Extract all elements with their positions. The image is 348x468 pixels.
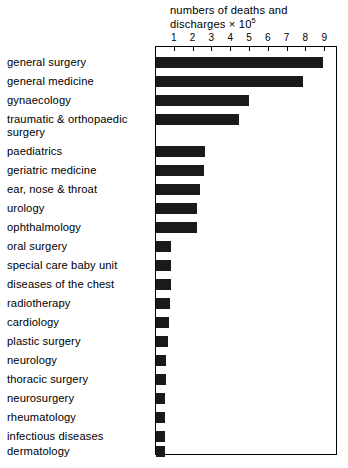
category-label-neurology: neurology [5,354,151,367]
category-label-rheumatology: rheumatology [5,411,151,424]
bar-infectious-diseases [156,431,165,442]
chart-title-line1: numbers of deaths and [170,4,288,16]
bar-thoracic-surgery [156,374,166,385]
bar-radiotherapy [156,298,170,309]
category-label-general-surgery: general surgery [5,56,151,69]
category-label-oral-surgery: oral surgery [5,240,151,253]
category-label-special-care-baby-unit: special care baby unit [5,259,151,272]
bar-rheumatology [156,412,165,423]
category-label-line1: traumatic & orthopaedic [7,113,151,126]
bar-neurosurgery [156,393,165,404]
category-label-geriatric-medicine: geriatric medicine [5,164,151,177]
x-tick-label-8: 8 [303,32,309,44]
x-tick-label-1: 1 [171,32,177,44]
category-label-thoracic-surgery: thoracic surgery [5,373,151,386]
bar-traumatic-orthopaedic-surgery [156,114,239,125]
x-tick-label-9: 9 [321,32,327,44]
category-label-gynaecology: gynaecology [5,94,151,107]
category-label-infectious-diseases: infectious diseases [5,430,151,443]
bar-paediatrics [156,146,205,157]
category-label-plastic-surgery: plastic surgery [5,335,151,348]
bar-diseases-of-the-chest [156,279,171,290]
bar-urology [156,203,197,214]
category-label-radiotherapy: radiotherapy [5,297,151,310]
category-label-general-medicine: general medicine [5,75,151,88]
category-label-diseases-of-the-chest: diseases of the chest [5,278,151,291]
x-tick-label-6: 6 [265,32,271,44]
category-label-ear-nose-throat: ear, nose & throat [5,183,151,196]
bar-special-care-baby-unit [156,260,171,271]
chart-title-line2: discharges × 10 [170,18,252,30]
category-label-line2: surgery [7,126,151,139]
bar-gynaecology [156,95,249,106]
bar-plastic-surgery [156,336,168,347]
x-axis-tick-labels: 1 2 3 4 5 6 7 8 9 [155,32,337,45]
category-label-cardiology: cardiology [5,316,151,329]
bar-cardiology [156,317,169,328]
category-label-paediatrics: paediatrics [5,145,151,158]
bar-chart: numbers of deaths anddischarges × 105 1 … [0,0,348,468]
bar-general-surgery [156,57,323,68]
chart-title: numbers of deaths anddischarges × 105 [170,4,345,31]
category-label-neurosurgery: neurosurgery [5,392,151,405]
bar-neurology [156,355,166,366]
bar-dermatology [156,446,165,457]
category-label-traumatic-orthopaedic-surgery: traumatic & orthopaedicsurgery [5,113,151,138]
bar-oral-surgery [156,241,171,252]
bar-geriatric-medicine [156,165,204,176]
bar-general-medicine [156,76,303,87]
x-tick-label-4: 4 [227,32,233,44]
x-tick-label-7: 7 [284,32,290,44]
x-tick-label-3: 3 [209,32,215,44]
chart-title-exponent: 5 [252,16,256,25]
category-label-ophthalmology: ophthalmology [5,221,151,234]
category-label-urology: urology [5,202,151,215]
plot-area-frame [155,46,337,455]
bar-ophthalmology [156,222,197,233]
bar-ear-nose-throat [156,184,200,195]
x-tick-label-2: 2 [190,32,196,44]
x-tick-label-5: 5 [246,32,252,44]
category-label-dermatology: dermatology [5,445,151,458]
